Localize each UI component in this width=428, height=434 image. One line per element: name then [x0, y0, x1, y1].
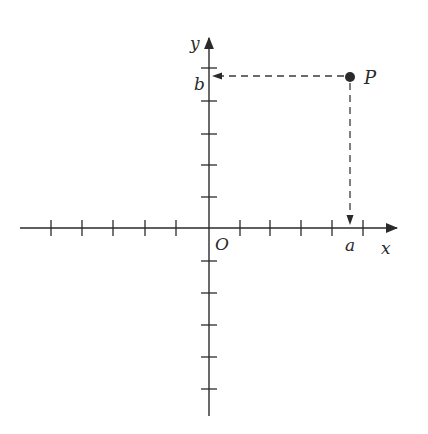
x-axis-label: x — [381, 238, 391, 258]
coordinate-plane-diagram: y b P O a x — [0, 0, 428, 434]
b-coordinate-label: b — [194, 74, 205, 94]
point-p-marker — [345, 72, 355, 82]
y-axis-label: y — [189, 33, 200, 53]
origin-label: O — [215, 234, 229, 254]
a-coordinate-label: a — [345, 235, 355, 255]
point-p-label: P — [363, 67, 377, 88]
